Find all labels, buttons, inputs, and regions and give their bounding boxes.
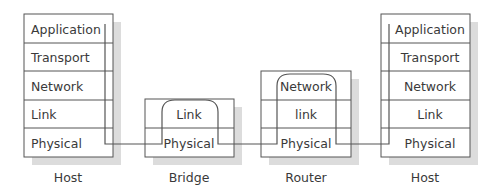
layer-link: Link <box>417 107 443 122</box>
node-caption-host-right: Host <box>411 170 440 185</box>
layer-link: link <box>295 107 318 122</box>
layer-link: Link <box>31 107 57 122</box>
layer-physical: Physical <box>164 136 215 151</box>
node-caption-bridge: Bridge <box>169 170 210 185</box>
layer-application: Application <box>31 22 101 37</box>
layer-physical: Physical <box>405 136 456 151</box>
bridge-stack: Link Physical Bridge <box>145 99 234 185</box>
layer-application: Application <box>395 22 465 37</box>
layer-physical: Physical <box>31 136 82 151</box>
layer-transport: Transport <box>400 50 460 65</box>
layer-network: Network <box>280 79 333 94</box>
layer-network: Network <box>31 79 84 94</box>
node-caption-host-left: Host <box>54 170 83 185</box>
node-caption-router: Router <box>285 170 327 185</box>
layer-physical: Physical <box>281 136 332 151</box>
layer-link: Link <box>176 107 202 122</box>
layer-transport: Transport <box>30 50 90 65</box>
protocol-stack-diagram: Application Transport Network Link Physi… <box>0 0 494 194</box>
router-stack: Network link Physical Router <box>261 71 351 185</box>
layer-network: Network <box>404 79 457 94</box>
